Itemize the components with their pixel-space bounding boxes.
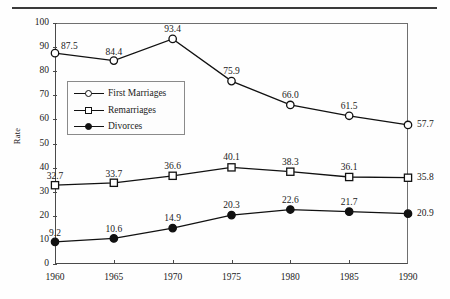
data-point-label: 14.9: [161, 214, 185, 224]
legend-item-remarriages: Remarriages: [74, 103, 156, 117]
data-point-marker: [51, 182, 58, 189]
data-point-label: 22.6: [278, 196, 302, 206]
data-point-label: 36.1: [337, 163, 361, 173]
data-point-marker: [404, 121, 411, 128]
data-point-marker: [287, 206, 294, 213]
data-point-label: 61.5: [337, 102, 361, 112]
data-point-label: 66.0: [278, 91, 302, 101]
data-point-marker: [169, 172, 176, 179]
data-point-marker: [228, 164, 235, 171]
legend-label: Divorces: [108, 121, 142, 131]
data-point-label: 40.1: [220, 153, 244, 163]
data-point-label: 20.3: [220, 201, 244, 211]
data-point-marker: [110, 235, 117, 242]
data-point-marker: [346, 173, 353, 180]
filled-circle-marker-icon: [74, 120, 104, 132]
data-point-marker: [110, 57, 117, 64]
data-point-label: 9.2: [43, 229, 67, 239]
data-point-marker: [345, 112, 352, 119]
chart-legend: First Marriages Remarriages Divorces: [67, 81, 185, 135]
data-point-label: 20.9: [417, 209, 434, 219]
data-point-label: 10.6: [102, 225, 126, 235]
data-point-marker: [287, 168, 294, 175]
data-point-label: 87.5: [61, 42, 78, 52]
data-point-label: 33.7: [102, 170, 126, 180]
data-point-marker: [51, 49, 58, 56]
data-point-label: 21.7: [337, 198, 361, 208]
data-point-marker: [110, 179, 117, 186]
data-point-marker: [169, 224, 176, 231]
data-point-marker: [228, 77, 235, 84]
data-point-label: 57.7: [417, 120, 434, 130]
data-point-label: 75.9: [220, 67, 244, 77]
data-point-marker: [169, 35, 176, 42]
data-point-label: 84.4: [102, 48, 126, 58]
data-point-label: 38.3: [278, 158, 302, 168]
data-point-marker: [404, 210, 411, 217]
data-point-label: 36.6: [161, 162, 185, 172]
data-point-label: 93.4: [161, 25, 185, 35]
legend-label: Remarriages: [108, 105, 156, 115]
data-point-marker: [228, 211, 235, 218]
data-point-marker: [51, 238, 58, 245]
data-point-marker: [404, 174, 411, 181]
data-point-marker: [287, 101, 294, 108]
legend-item-divorces: Divorces: [74, 119, 142, 133]
open-square-marker-icon: [74, 104, 104, 116]
data-point-marker: [345, 208, 352, 215]
data-point-label: 32.7: [43, 172, 67, 182]
legend-label: First Marriages: [108, 88, 166, 98]
legend-item-first-marriages: First Marriages: [74, 86, 166, 100]
chart-figure: Rate 0102030405060708090100 196019651970…: [0, 0, 450, 299]
open-circle-marker-icon: [74, 87, 104, 99]
data-point-label: 35.8: [417, 173, 434, 183]
